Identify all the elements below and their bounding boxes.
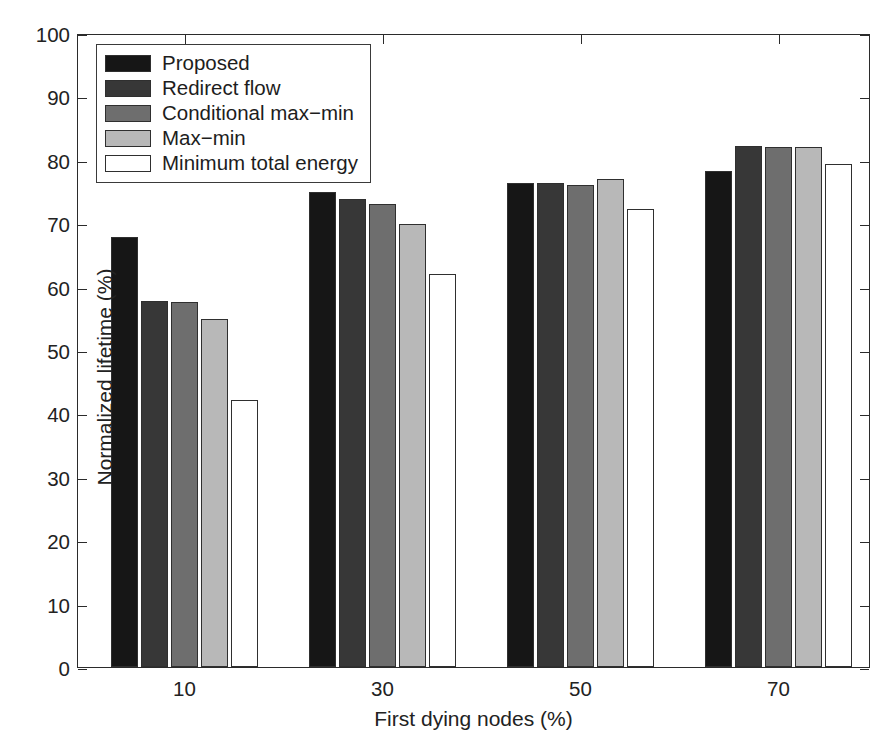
bar (201, 319, 228, 667)
x-tick-top (185, 35, 186, 44)
y-tick-right (860, 479, 869, 480)
y-tick-label: 70 (12, 215, 70, 236)
y-tick (78, 479, 87, 480)
y-tick-label: 50 (12, 342, 70, 363)
legend-label: Proposed (162, 53, 250, 74)
bar (507, 183, 534, 667)
x-tick-label: 30 (343, 677, 423, 701)
legend-label: Redirect flow (162, 78, 281, 99)
x-tick-top (779, 35, 780, 44)
y-tick-label: 0 (12, 659, 70, 680)
legend-label: Max−min (162, 128, 246, 149)
y-axis-title: Normalized lifetime (%) (93, 97, 117, 657)
y-tick-right (860, 98, 869, 99)
y-tick (78, 542, 87, 543)
legend-swatch (105, 55, 151, 72)
x-tick-label: 10 (145, 677, 225, 701)
bar (705, 171, 732, 667)
y-tick-label: 60 (12, 279, 70, 300)
bar (597, 179, 624, 667)
plot-area: 0102030405060708090100 10305070 Proposed… (77, 34, 870, 668)
legend-item: Minimum total energy (105, 151, 358, 176)
legend-label: Minimum total energy (162, 153, 358, 174)
legend-swatch (105, 80, 151, 97)
y-tick (78, 35, 87, 36)
legend-item: Proposed (105, 51, 358, 76)
y-tick-right (860, 669, 869, 670)
bar (735, 146, 762, 667)
y-tick-right (860, 225, 869, 226)
bar (825, 164, 852, 667)
bar (627, 209, 654, 667)
y-tick-right (860, 35, 869, 36)
y-tick (78, 606, 87, 607)
bar (171, 302, 198, 667)
legend-label: Conditional max−min (162, 103, 354, 124)
y-tick-right (860, 352, 869, 353)
y-tick-right (860, 415, 869, 416)
bar (429, 274, 456, 667)
legend-item: Conditional max−min (105, 101, 358, 126)
bar (765, 147, 792, 667)
y-tick-label: 10 (12, 596, 70, 617)
y-tick-label: 20 (12, 532, 70, 553)
x-tick-top (581, 35, 582, 44)
y-tick-label: 100 (12, 25, 70, 46)
bar (339, 199, 366, 667)
y-tick-label: 30 (12, 469, 70, 490)
bar (399, 224, 426, 667)
y-tick (78, 289, 87, 290)
y-tick (78, 352, 87, 353)
y-tick-label: 80 (12, 152, 70, 173)
x-tick-label: 70 (739, 677, 819, 701)
y-tick-right (860, 162, 869, 163)
y-tick-label: 90 (12, 88, 70, 109)
y-tick-right (860, 289, 869, 290)
bar (795, 147, 822, 667)
y-tick (78, 225, 87, 226)
x-tick-top (383, 35, 384, 44)
bar (369, 204, 396, 667)
y-tick-right (860, 542, 869, 543)
y-tick (78, 162, 87, 163)
y-tick (78, 98, 87, 99)
x-axis-title: First dying nodes (%) (77, 707, 870, 731)
bar (537, 183, 564, 667)
y-tick-right (860, 606, 869, 607)
y-tick (78, 415, 87, 416)
y-tick-label: 40 (12, 405, 70, 426)
bar (567, 185, 594, 667)
legend: ProposedRedirect flowConditional max−min… (96, 44, 371, 183)
legend-item: Redirect flow (105, 76, 358, 101)
bar (231, 400, 258, 667)
figure: 0102030405060708090100 10305070 Proposed… (0, 0, 892, 747)
legend-item: Max−min (105, 126, 358, 151)
x-tick-label: 50 (541, 677, 621, 701)
bar (141, 301, 168, 667)
y-tick (78, 669, 87, 670)
bar (309, 192, 336, 668)
